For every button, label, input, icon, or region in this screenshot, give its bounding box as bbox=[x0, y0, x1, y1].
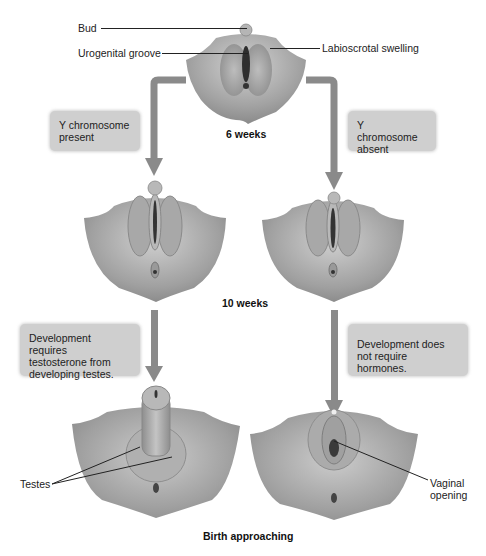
embryo-10-weeks-right-illustration bbox=[262, 190, 404, 303]
embryo-6-weeks-illustration bbox=[186, 20, 306, 125]
stage-label-10-weeks: 10 weeks bbox=[222, 297, 268, 309]
label-testes: Testes bbox=[20, 478, 50, 490]
note-text: testosterone from bbox=[29, 356, 131, 368]
leader-line-urogenital-groove bbox=[162, 53, 248, 54]
note-text: Y chromosome bbox=[357, 119, 427, 143]
note-female-development: Development does not require hormones. bbox=[348, 324, 468, 376]
note-y-chromosome-absent: Y chromosome absent bbox=[348, 111, 436, 151]
label-vaginal-opening: Vaginal opening bbox=[430, 477, 467, 501]
female-birth-illustration bbox=[250, 404, 418, 520]
note-text: Y chromosome bbox=[59, 119, 131, 131]
label-vaginal-opening-line1: Vaginal bbox=[430, 477, 467, 489]
label-labioscrotal-swelling: Labioscrotal swelling bbox=[322, 42, 419, 54]
leader-line-bud bbox=[101, 28, 247, 29]
male-birth-illustration bbox=[72, 384, 240, 520]
label-vaginal-opening-line2: opening bbox=[430, 489, 467, 501]
stage-label-6-weeks: 6 weeks bbox=[226, 128, 266, 140]
note-text: present bbox=[59, 131, 131, 143]
stage-label-birth-approaching: Birth approaching bbox=[203, 530, 293, 542]
note-text: Development does bbox=[357, 338, 459, 350]
note-text: absent bbox=[357, 143, 427, 155]
label-bud: Bud bbox=[78, 22, 97, 34]
note-y-chromosome-present: Y chromosome present bbox=[50, 111, 140, 151]
note-male-development: Development requires testosterone from d… bbox=[20, 324, 140, 376]
label-urogenital-groove: Urogenital groove bbox=[78, 47, 161, 59]
note-text: Development requires bbox=[29, 332, 131, 356]
note-text: not require hormones. bbox=[357, 350, 459, 374]
leader-line-labioscrotal bbox=[270, 48, 320, 49]
embryo-10-weeks-left-illustration bbox=[84, 178, 226, 303]
note-text: developing testes. bbox=[29, 368, 131, 380]
